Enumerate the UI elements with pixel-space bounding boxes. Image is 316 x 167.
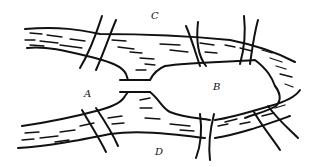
south-river-lower-bank bbox=[18, 116, 290, 148]
label-island-west: A bbox=[84, 88, 91, 99]
bridge-3 bbox=[240, 16, 258, 64]
north-river-lower-bank-west bbox=[27, 48, 128, 80]
label-north-bank: C bbox=[151, 10, 159, 21]
channel-north-notch bbox=[120, 60, 275, 86]
label-island-east: B bbox=[213, 81, 220, 92]
bridge-7-center bbox=[128, 80, 150, 92]
bridge-6 bbox=[82, 108, 118, 152]
label-south-bank: D bbox=[155, 146, 163, 157]
river-bridges-diagram: C A B D bbox=[0, 0, 316, 167]
map-drawing bbox=[0, 0, 316, 167]
